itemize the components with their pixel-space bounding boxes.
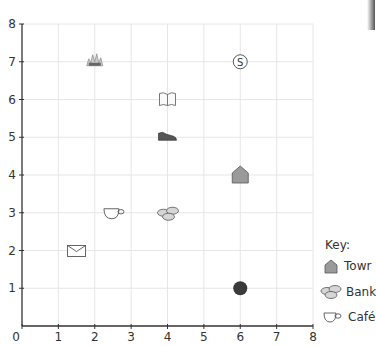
y-tick-label: 5: [8, 130, 16, 144]
y-tick-label: 2: [8, 244, 16, 258]
svg-text:S: S: [237, 57, 243, 68]
cup-icon: [104, 209, 124, 219]
x-tick-label: 2: [91, 330, 99, 344]
x-tick-label: 3: [127, 330, 135, 344]
x-tick-label: 8: [309, 330, 317, 344]
y-tick-label: 1: [8, 281, 16, 295]
envelope-icon: [68, 246, 86, 257]
legend-label: Towr: [344, 259, 371, 273]
y-tick-label: 3: [8, 206, 16, 220]
coins-icon: [320, 284, 342, 300]
coins-icon: [158, 207, 179, 220]
house-icon: [322, 258, 340, 274]
y-tick-label: 6: [8, 93, 16, 107]
x-tick-label: 4: [164, 330, 172, 344]
tick-labels: 01234567812345678: [8, 17, 317, 344]
house-icon: [232, 166, 248, 183]
x-tick-label: 5: [200, 330, 208, 344]
legend-label: Café: [348, 310, 375, 324]
book-icon: [160, 93, 176, 106]
x-tick-label: 7: [273, 330, 281, 344]
page-edge-shadow: [367, 0, 375, 30]
filled-circle-icon: [233, 281, 247, 295]
x-tick-label: 6: [236, 330, 244, 344]
legend-item-cafe: Café: [322, 310, 375, 324]
grid-lines: [22, 24, 313, 326]
legend-label: Bank: [346, 285, 376, 299]
x-tick-label: 0: [12, 330, 20, 344]
x-tick-label: 1: [55, 330, 63, 344]
cup-icon: [322, 310, 344, 324]
legend-item-bank: Bank: [320, 284, 376, 300]
y-tick-label: 4: [8, 168, 16, 182]
legend-title: Key:: [325, 238, 350, 252]
axes: [19, 24, 313, 329]
y-tick-label: 7: [8, 55, 16, 69]
legend-item-town-hall: Towr: [322, 258, 371, 274]
y-tick-label: 8: [8, 17, 16, 31]
s-circle-icon: S: [233, 55, 247, 69]
